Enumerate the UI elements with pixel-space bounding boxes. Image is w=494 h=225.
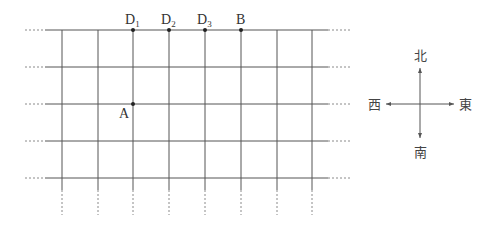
label-b: B: [236, 12, 245, 27]
label-d2: D2: [161, 12, 176, 29]
compass: 北 南 西 東: [368, 48, 472, 160]
compass-south-label: 南: [414, 145, 427, 160]
horizontal-streets: [25, 30, 352, 178]
compass-west-label: 西: [368, 97, 381, 112]
point-a: [131, 102, 135, 106]
point-b: [239, 28, 243, 32]
compass-east-label: 東: [459, 97, 472, 112]
vertical-streets: [62, 30, 312, 215]
label-d3: D3: [197, 12, 212, 29]
label-a: A: [119, 106, 130, 121]
label-d1: D1: [125, 12, 140, 29]
compass-north-label: 北: [414, 48, 427, 63]
street-grid-diagram: D1 D2 D3 B A 北 南 西 東: [0, 0, 494, 225]
